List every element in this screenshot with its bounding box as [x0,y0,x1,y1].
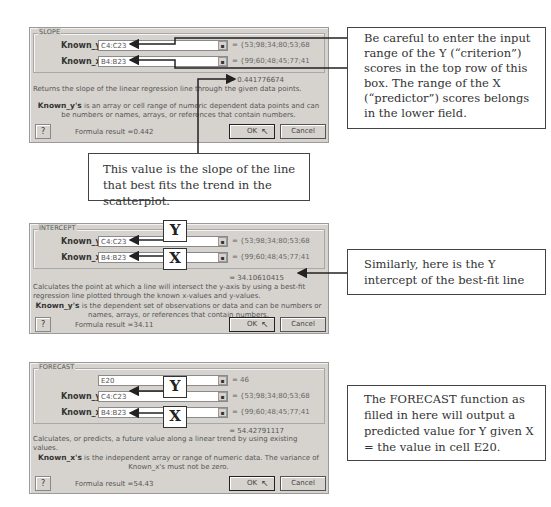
argument-description: Known_y's is an array or cell range of n… [33,101,324,120]
callout-intercept-value: Similarly, here is the Y intercept of th… [347,249,546,295]
y-label-forecast: Y [163,376,187,398]
field-result: = {99;60;48;45;77;41 [232,253,310,261]
formula-result: Formula result =0.442 [75,128,153,136]
collapse-dialog-icon[interactable]: ▪ [218,253,227,262]
collapse-dialog-icon[interactable]: ▪ [218,408,227,417]
slope-args-group: SLOPE Known_y's C4:C23 ▪ = {53;98;34;80;… [33,33,325,73]
function-description: Calculates the point at which a line wil… [33,283,324,301]
x-label-intercept: X [163,248,187,270]
function-description: Returns the slope of the linear regressi… [33,85,324,94]
field-row-known-xs: Known_x's B4:B23 ▪ = {99;60;48;45;77;41 [34,56,324,68]
field-result: = {99;60;48;45;77;41 [232,408,310,416]
argument-name: Known_x's [38,453,82,462]
help-button[interactable]: ? [35,124,51,139]
collapse-dialog-icon[interactable]: ▪ [218,376,227,385]
collapse-dialog-icon[interactable]: ▪ [218,57,227,66]
callout-slope-inputs: Be careful to enter the input range of t… [347,27,546,129]
argument-text: is the independent array or range of num… [82,454,319,471]
dialog-title: FORECAST [38,363,75,371]
help-button[interactable]: ? [35,317,51,332]
collapse-dialog-icon[interactable]: ▪ [218,41,227,50]
x-label-forecast: X [163,406,187,428]
argument-text: is an array or cell range of numeric dep… [61,102,319,119]
y-label-intercept: Y [163,220,187,242]
dialog-title: INTERCEPT [38,224,77,232]
formula-result: Formula result =54.43 [75,480,153,488]
formula-value: = 54.42791117 [229,427,284,435]
collapse-dialog-icon[interactable]: ▪ [218,392,227,401]
function-description: Calculates, or predicts, a future value … [33,435,324,453]
field-row-known-ys: Known_y's C4:C23 ▪ = {53;98;34;80;53;68 [34,40,324,52]
argument-name: Known_y's [36,301,80,310]
formula-value: = 34.10610415 [229,274,284,282]
callout-slope-value: This value is the slope of the line that… [88,153,310,201]
dialog-title: SLOPE [38,28,61,36]
field-result: = {53;98;34;80;53;68 [232,392,310,400]
callout-forecast: The FORECAST function as filled in here … [347,385,546,461]
known-ys-input[interactable]: C4:C23 [98,40,228,51]
mouse-pointer-icon: ↖ [261,126,269,136]
formula-result: Formula result =34.11 [75,321,153,329]
cancel-button[interactable]: Cancel [280,476,326,491]
mouse-pointer-icon: ↖ [261,478,269,488]
field-result: = {99;60;48;45;77;41 [232,57,310,65]
cancel-button[interactable]: Cancel [280,124,326,139]
cancel-button[interactable]: Cancel [280,317,326,332]
slope-dialog: SLOPE Known_y's C4:C23 ▪ = {53;98;34;80;… [29,27,329,143]
field-result: = 46 [232,376,249,384]
field-result: = {53;98;34;80;53;68 [232,237,310,245]
collapse-dialog-icon[interactable]: ▪ [218,237,227,246]
mouse-pointer-icon: ↖ [261,319,269,329]
formula-value: = 0.441776674 [229,76,284,84]
argument-description: Known_x's is the independent array or ra… [33,453,324,472]
known-xs-input[interactable]: B4:B23 [98,56,228,67]
argument-name: Known_y's [38,101,82,110]
help-button[interactable]: ? [35,476,51,491]
field-result: = {53;98;34;80;53;68 [232,41,310,49]
